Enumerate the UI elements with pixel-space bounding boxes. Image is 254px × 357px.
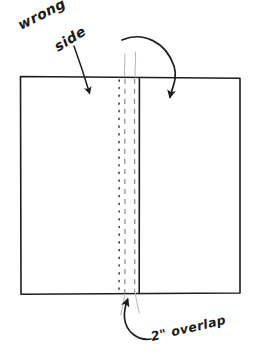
diagram-canvas: wrong side 2" overlap xyxy=(0,0,254,357)
fold-tick-top-right xyxy=(135,52,136,77)
sewing-diagram: wrong side 2" overlap xyxy=(0,0,254,357)
